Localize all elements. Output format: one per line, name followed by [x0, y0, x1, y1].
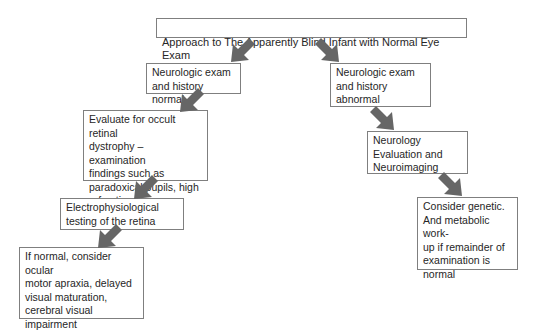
node-evaluate-retinal: Evaluate for occult retinal dystrophy – … — [83, 110, 208, 181]
node-neuro-abnormal: Neurologic exam and history abnormal — [330, 63, 431, 107]
diagram-title-box: Approach to The Apparently Blind Infant … — [156, 18, 467, 38]
arrow-down-right-icon — [315, 38, 341, 64]
node-neurology-eval: Neurology Evaluation and Neuroimaging — [367, 131, 468, 174]
node-if-normal: If normal, consider ocular motor apraxia… — [19, 247, 144, 319]
node-electrophysiological: Electrophysiological testing of the reti… — [60, 198, 184, 230]
arrow-down-left-icon — [229, 38, 255, 64]
arrow-down-right-icon — [370, 106, 396, 132]
node-consider-genetic: Consider genetic. And metabolic work- up… — [417, 197, 518, 270]
arrow-down-left-icon — [132, 175, 158, 201]
arrow-down-left-icon — [96, 224, 122, 250]
arrow-down-right-icon — [438, 172, 464, 198]
diagram-title: Approach to The Apparently Blind Infant … — [162, 36, 439, 62]
arrow-down-left-icon — [178, 88, 204, 114]
